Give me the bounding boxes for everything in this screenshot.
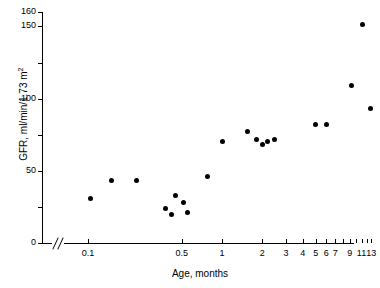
y-tick-label: 0 [8, 238, 36, 247]
data-point [220, 139, 225, 144]
data-point [88, 196, 93, 201]
x-tick [262, 239, 263, 243]
data-point [272, 137, 277, 142]
y-tick [38, 243, 43, 244]
x-tick [286, 239, 287, 243]
data-point [181, 200, 186, 205]
x-tick-label: 0.1 [74, 249, 102, 258]
x-tick-label: 13 [357, 249, 380, 258]
x-tick [350, 239, 351, 243]
y-tick [38, 135, 43, 136]
data-point [173, 193, 178, 198]
x-tick [367, 239, 368, 243]
data-point [134, 178, 139, 183]
y-tick [38, 63, 43, 64]
x-tick [343, 239, 344, 243]
y-tick [38, 207, 43, 208]
data-point [205, 174, 210, 179]
y-tick [38, 99, 43, 100]
x-tick [222, 239, 223, 243]
data-point [324, 122, 329, 127]
x-tick [335, 239, 336, 243]
y-axis-title: GFR, ml/min/1.73 m2 [17, 39, 29, 189]
x-tick [362, 239, 363, 243]
x-tick [182, 239, 183, 243]
data-point [185, 210, 190, 215]
x-tick [88, 239, 89, 243]
data-point [260, 142, 265, 147]
x-tick [371, 239, 372, 243]
x-tick [316, 239, 317, 243]
x-axis-stub [42, 243, 52, 244]
data-point [349, 83, 354, 88]
x-axis-title: Age, months [120, 268, 280, 279]
y-axis-line [42, 12, 43, 244]
y-tick [38, 12, 43, 13]
data-point [169, 212, 174, 217]
data-point [163, 206, 168, 211]
x-tick [326, 239, 327, 243]
data-point [265, 139, 270, 144]
data-point [254, 137, 259, 142]
data-point [368, 106, 373, 111]
data-point [360, 22, 365, 27]
data-point [313, 122, 318, 127]
y-tick [38, 171, 43, 172]
data-point [245, 129, 250, 134]
y-tick-label: 150 [8, 21, 36, 30]
data-point [109, 178, 114, 183]
scatter-plot-figure: 050100150160 0.10.5123456791113 GFR, ml/… [0, 0, 380, 288]
y-tick-label: 160 [8, 7, 36, 16]
axis-break-mark-2 [57, 237, 63, 249]
x-tick [303, 239, 304, 243]
x-tick [356, 239, 357, 243]
y-tick [38, 26, 43, 27]
x-tick-label: 1 [208, 249, 236, 258]
x-axis-line [64, 243, 354, 244]
x-tick-label: 0.5 [168, 249, 196, 258]
